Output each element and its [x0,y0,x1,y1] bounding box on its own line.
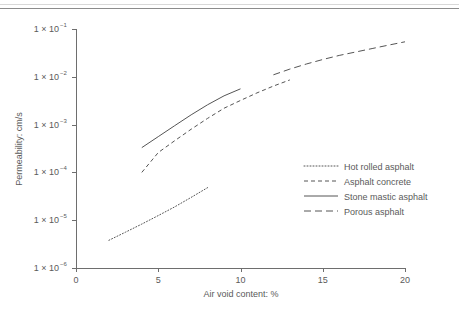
y-tick-label-2: 1 × 10−4 [34,165,68,177]
svg-text:−1: −1 [60,22,68,28]
chart-legend: Hot rolled asphaltAsphalt concreteStone … [304,162,428,217]
x-axis-title: Air void content: % [203,289,278,299]
series-3-line [273,42,405,75]
x-tick-label-3: 15 [318,275,328,285]
y-tick-labels: 1 × 10−61 × 10−51 × 10−41 × 10−31 × 10−2… [34,22,68,273]
permeability-vs-air-void-chart: 05101520 1 × 10−61 × 10−51 × 10−41 × 10−… [0,0,459,309]
y-axis-title: Permeability: cm/s [14,112,24,186]
x-tick-label-0: 0 [73,275,78,285]
y-tick-label-4: 1 × 10−2 [34,70,68,82]
svg-text:1 × 10: 1 × 10 [34,215,59,225]
svg-text:−6: −6 [60,261,68,267]
x-tick-label-4: 20 [400,275,410,285]
legend-label-1: Asphalt concrete [344,177,411,187]
svg-text:1 × 10: 1 × 10 [34,24,59,34]
svg-text:−2: −2 [60,70,68,76]
svg-text:−3: −3 [60,118,68,124]
svg-text:−5: −5 [60,213,68,219]
x-tick-label-2: 10 [235,275,245,285]
axis-ticks [72,30,406,273]
y-tick-label-0: 1 × 10−6 [34,261,68,273]
figure-container: 05101520 1 × 10−61 × 10−51 × 10−41 × 10−… [0,0,459,309]
y-tick-label-5: 1 × 10−1 [34,22,68,34]
x-tick-labels: 05101520 [73,275,410,285]
series-2-line [142,89,241,148]
legend-label-3: Porous asphalt [344,207,405,217]
x-tick-label-1: 5 [156,275,161,285]
legend-label-2: Stone mastic asphalt [344,192,428,202]
svg-text:1 × 10: 1 × 10 [34,120,59,130]
y-tick-label-1: 1 × 10−5 [34,213,68,225]
svg-text:−4: −4 [60,165,68,171]
svg-text:1 × 10: 1 × 10 [34,263,59,273]
svg-text:1 × 10: 1 × 10 [34,72,59,82]
series-1-line [142,80,290,172]
svg-text:1 × 10: 1 × 10 [34,167,59,177]
legend-label-0: Hot rolled asphalt [344,162,415,172]
series-0-line [109,188,208,241]
y-tick-label-3: 1 × 10−3 [34,118,68,130]
